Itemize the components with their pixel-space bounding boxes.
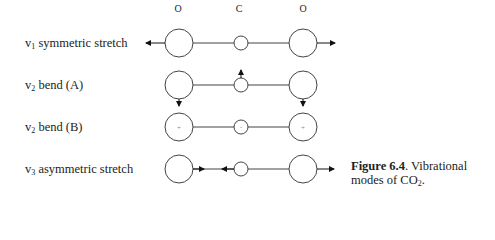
- molecule-bend-a: [165, 70, 317, 106]
- carbon-atom: [234, 78, 248, 92]
- caption-text: . Vibrational: [405, 159, 467, 173]
- molecule-asymmetric-stretch: [165, 155, 334, 183]
- figure-label: Figure 6.4: [351, 159, 405, 173]
- oxygen-atom: [289, 71, 317, 99]
- plus-mark: +: [177, 124, 181, 132]
- carbon-atom: [234, 162, 248, 176]
- oxygen-atom: [289, 29, 317, 57]
- oxygen-atom: [165, 71, 193, 99]
- molecule-symmetric-stretch: [146, 29, 335, 57]
- oxygen-atom: [289, 155, 317, 183]
- caption-end: .: [422, 173, 425, 187]
- figure-caption: Figure 6.4. Vibrational modes of CO2.: [351, 159, 467, 191]
- oxygen-atom: [165, 155, 193, 183]
- caption-text: modes of CO: [351, 173, 418, 187]
- carbon-atom: [234, 36, 248, 50]
- oxygen-atom: [165, 29, 193, 57]
- plus-mark: +: [301, 124, 305, 132]
